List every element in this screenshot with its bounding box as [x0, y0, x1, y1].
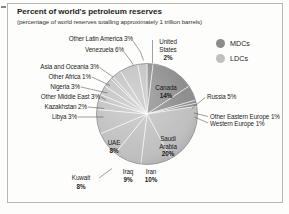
- slice-label-uae-value: 8%: [110, 147, 119, 154]
- slice-label-saudi-line2: Arabia: [159, 143, 177, 150]
- slice-label-canada-name: Canada: [155, 84, 176, 91]
- label-other-middle-east: Other Middle East 3%: [11, 93, 100, 101]
- label-united-states-line2: States: [155, 46, 181, 54]
- slice-label-iran: Iran 10%: [140, 168, 162, 183]
- slice-label-canada: Canada 14%: [150, 84, 182, 99]
- legend-item-mdcs[interactable]: MDCs: [216, 38, 250, 49]
- corner-tick-mark: [1, 6, 6, 8]
- legend-item-ldcs[interactable]: LDCs: [216, 53, 250, 64]
- label-western-europe: Western Europe 1%: [210, 120, 265, 128]
- label-venezuela: Venezuela 6%: [60, 46, 124, 54]
- legend-label-ldcs: LDCs: [230, 54, 248, 63]
- label-asia-and-oceania: Asia and Oceania 3%: [22, 63, 99, 71]
- label-kuwait-value: 8%: [62, 183, 100, 191]
- chart-legend: MDCs LDCs: [216, 38, 250, 68]
- slice-label-iraq-value: 9%: [124, 176, 133, 183]
- slice-label-saudi-arabia: Saudi Arabia 20%: [152, 135, 184, 158]
- label-other-africa: Other Africa 1%: [28, 73, 91, 81]
- label-russia: Russia 5%: [207, 93, 236, 101]
- slice-label-uae-name: UAE: [108, 139, 121, 146]
- chart-subtitle: (percentage of world reserves totalling …: [17, 18, 202, 25]
- slice-label-saudi-line1: Saudi: [160, 135, 176, 142]
- slice-label-iran-value: 10%: [145, 176, 157, 183]
- slice-label-iraq: Iraq 9%: [117, 168, 139, 183]
- slice-label-iraq-name: Iraq: [123, 168, 133, 175]
- legend-swatch-mdcs: [216, 39, 225, 48]
- figure-container: Percent of world's petroleum reserves (p…: [0, 0, 289, 214]
- slice-label-saudi-value: 20%: [162, 150, 174, 157]
- slice-label-uae: UAE 8%: [101, 139, 127, 154]
- label-other-latin-america: Other Latin America 3%: [46, 35, 133, 43]
- label-kuwait-name: Kuwait: [62, 174, 100, 182]
- label-libya: Libya 3%: [40, 113, 77, 121]
- slice-label-iran-name: Iran: [146, 168, 156, 175]
- legend-swatch-ldcs: [216, 54, 225, 63]
- label-nigeria: Nigeria 3%: [35, 83, 80, 91]
- label-kazakhstan: Kazakhstan 2%: [28, 103, 87, 111]
- slice-label-canada-value: 14%: [160, 92, 172, 99]
- chart-title: Percent of world's petroleum reserves: [17, 7, 162, 16]
- legend-label-mdcs: MDCs: [230, 39, 250, 48]
- label-united-states-line1: United: [155, 38, 181, 46]
- label-united-states-value: 2%: [155, 54, 181, 62]
